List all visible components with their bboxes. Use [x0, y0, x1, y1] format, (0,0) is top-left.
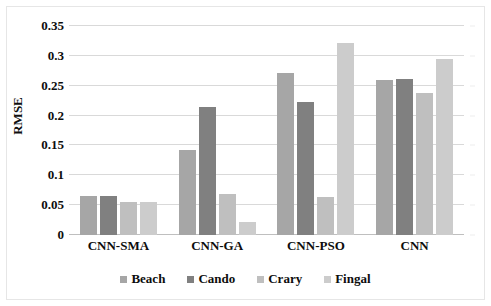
legend-item[interactable]: Crary: [257, 271, 302, 287]
bar[interactable]: [120, 202, 137, 235]
y-tick-label: 0.25: [18, 78, 64, 94]
bar[interactable]: [396, 79, 413, 235]
right-axis-tick: [470, 85, 475, 86]
bar[interactable]: [80, 196, 97, 235]
y-tick-label: 0.35: [18, 18, 64, 34]
x-axis-label: CNN-GA: [168, 238, 267, 260]
bar[interactable]: [277, 73, 294, 235]
bar-group: [365, 26, 464, 235]
x-axis-label: CNN: [365, 238, 464, 260]
chart-legend: BeachCandoCraryFingal: [0, 268, 491, 290]
right-axis-tick: [470, 55, 475, 56]
right-axis-tick: [470, 205, 475, 206]
legend-label: Cando: [198, 271, 235, 287]
right-axis-tick: [470, 175, 475, 176]
legend-item[interactable]: Cando: [187, 271, 235, 287]
y-tick-label: 0.05: [18, 197, 64, 213]
bar[interactable]: [100, 196, 117, 235]
right-axis-ticks: [470, 26, 478, 235]
right-axis-tick: [470, 145, 475, 146]
right-axis-tick: [470, 115, 475, 116]
x-axis-label: CNN-SMA: [69, 238, 168, 260]
legend-item[interactable]: Beach: [120, 271, 165, 287]
bar[interactable]: [179, 150, 196, 235]
bar[interactable]: [337, 43, 354, 235]
y-tick-label: 0.15: [18, 137, 64, 153]
x-axis-label: CNN-PSO: [267, 238, 366, 260]
y-tick-label: 0.3: [18, 48, 64, 64]
bar[interactable]: [239, 222, 256, 235]
legend-label: Beach: [131, 271, 165, 287]
bar[interactable]: [219, 194, 236, 235]
x-axis-category-labels: CNN-SMACNN-GACNN-PSOCNN: [69, 238, 464, 260]
bar-group: [168, 26, 267, 235]
chart-figure: RMSE 00.050.10.150.20.250.30.35 CNN-SMAC…: [0, 0, 491, 306]
y-tick-label: 0.1: [18, 167, 64, 183]
legend-label: Fingal: [335, 271, 370, 287]
y-axis-tick-labels: 00.050.10.150.20.250.30.35: [14, 26, 64, 235]
bar[interactable]: [199, 107, 216, 235]
legend-swatch-icon: [257, 276, 264, 283]
bar[interactable]: [376, 80, 393, 235]
bar[interactable]: [416, 93, 433, 235]
bar[interactable]: [317, 197, 334, 235]
legend-swatch-icon: [187, 276, 194, 283]
legend-swatch-icon: [120, 276, 127, 283]
bar[interactable]: [140, 202, 157, 235]
bar-group: [69, 26, 168, 235]
right-axis-tick: [470, 235, 475, 236]
legend-swatch-icon: [324, 276, 331, 283]
bar[interactable]: [297, 102, 314, 235]
legend-label: Crary: [268, 271, 302, 287]
y-tick-label: 0: [18, 227, 64, 243]
plot-area: [69, 26, 464, 235]
bar-group: [267, 26, 366, 235]
legend-item[interactable]: Fingal: [324, 271, 370, 287]
y-tick-label: 0.2: [18, 108, 64, 124]
bar-groups: [69, 26, 464, 235]
right-axis-tick: [470, 26, 475, 27]
bar[interactable]: [436, 59, 453, 235]
